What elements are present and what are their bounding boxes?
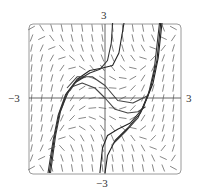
slope-segment xyxy=(161,45,166,51)
slope-segment xyxy=(111,135,114,142)
slope-segment xyxy=(119,87,126,89)
slope-segment xyxy=(110,125,115,131)
slope-segment xyxy=(80,135,84,142)
slope-segment xyxy=(81,144,83,151)
slope-segment xyxy=(31,84,32,91)
slope-segment xyxy=(122,154,123,161)
slope-segment xyxy=(38,156,45,159)
slope-segment xyxy=(31,64,32,71)
slope-segment xyxy=(41,74,42,81)
slope-segment xyxy=(40,165,44,171)
slope-segment xyxy=(162,124,164,131)
slope-segment xyxy=(61,84,64,91)
slope-segment xyxy=(51,104,53,111)
slope-segment xyxy=(91,44,93,51)
slope-segment xyxy=(100,125,104,131)
slope-segment xyxy=(82,24,83,31)
slope-segment xyxy=(152,155,155,162)
slope-segment xyxy=(92,164,93,171)
slope-segment xyxy=(141,115,145,121)
slope-segment xyxy=(162,64,164,71)
slope-segment xyxy=(173,134,175,141)
slope-segment xyxy=(71,145,74,152)
slope-segment xyxy=(61,24,63,31)
solution-8-curve xyxy=(48,77,85,173)
slope-segment xyxy=(31,54,32,61)
slope-segment xyxy=(122,44,124,51)
slope-segment xyxy=(112,164,113,171)
slope-segment xyxy=(162,165,165,172)
slope-segment xyxy=(109,76,116,80)
slope-segment xyxy=(132,164,133,171)
slope-segment xyxy=(102,24,103,31)
slope-segment xyxy=(132,34,134,41)
slope-segment xyxy=(80,55,84,62)
slope-segment xyxy=(152,125,155,132)
slope-segment xyxy=(31,144,33,151)
x-max-label: 3 xyxy=(186,93,192,104)
slope-segment xyxy=(119,117,127,118)
slope-segment xyxy=(172,44,174,51)
slope-segment xyxy=(142,34,144,41)
slope-segment xyxy=(68,67,75,69)
slope-segment xyxy=(92,24,93,31)
slope-segment xyxy=(129,67,136,69)
slope-segment xyxy=(38,36,45,39)
slope-segment xyxy=(152,164,154,171)
slope-segment xyxy=(31,134,32,141)
slope-segment xyxy=(112,44,114,51)
slope-segment xyxy=(82,164,83,171)
slope-segment xyxy=(78,117,85,118)
slope-segment xyxy=(51,114,53,121)
slope-segment xyxy=(68,127,75,129)
slope-segment xyxy=(140,66,146,71)
slope-segment xyxy=(40,145,43,152)
slope-segment xyxy=(91,144,93,151)
slope-segment xyxy=(31,74,32,81)
slope-segment xyxy=(121,55,124,62)
slope-segment xyxy=(122,144,124,151)
slope-segment xyxy=(122,164,123,171)
slope-segment xyxy=(71,154,73,161)
slope-segment xyxy=(81,44,83,51)
slope-segment xyxy=(51,84,53,91)
slope-segment xyxy=(58,57,65,59)
slope-segment xyxy=(141,145,145,152)
slope-segment xyxy=(111,55,114,62)
slope-segment xyxy=(101,55,104,62)
slope-segment xyxy=(60,125,64,131)
slope-segment xyxy=(173,114,174,121)
slope-segment xyxy=(41,134,43,141)
slope-segment xyxy=(162,25,165,32)
slope-segment xyxy=(51,24,53,31)
slope-segment xyxy=(69,56,75,61)
slope-segment xyxy=(92,34,93,41)
slope-field-plot xyxy=(0,0,201,194)
slope-segment xyxy=(152,24,154,31)
slope-segment xyxy=(81,34,83,41)
slope-segment xyxy=(132,144,135,151)
slope-segment xyxy=(152,114,154,121)
slope-segment xyxy=(173,64,174,71)
slope-segment xyxy=(173,84,174,91)
slope-segment xyxy=(131,135,136,141)
slope-segment xyxy=(130,85,135,90)
slope-segment xyxy=(171,155,175,161)
slope-segment xyxy=(162,74,164,81)
slope-segment xyxy=(142,164,143,171)
slope-segment xyxy=(89,108,97,109)
slope-segment xyxy=(71,24,72,31)
slope-segment xyxy=(163,104,164,111)
slope-segment xyxy=(132,24,133,31)
slope-segment xyxy=(162,54,165,61)
slope-segment xyxy=(79,106,85,110)
slope-segment xyxy=(120,65,126,70)
slope-segment xyxy=(152,104,154,111)
slope-segment xyxy=(151,135,156,140)
slope-segment xyxy=(89,117,96,120)
slope-segment xyxy=(150,147,157,150)
slope-segment xyxy=(69,136,75,141)
slope-segment xyxy=(162,134,165,141)
slope-segment xyxy=(173,74,174,81)
slope-segment xyxy=(79,126,85,130)
